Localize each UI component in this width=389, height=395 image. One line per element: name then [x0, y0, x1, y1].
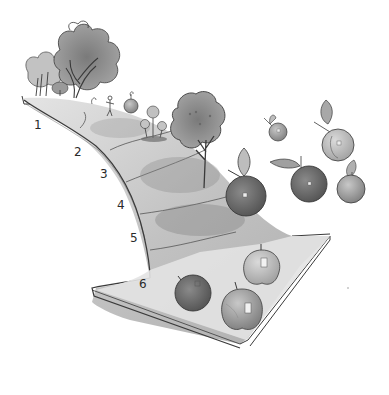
speck [347, 287, 349, 289]
apple-icon [124, 92, 138, 113]
apple-icon [314, 100, 354, 161]
stage-4-apple-with-leaf [226, 148, 266, 216]
stage-label-3: 3 [100, 168, 108, 180]
stage-label-6: 6 [139, 278, 147, 290]
stage-label-2: 2 [74, 146, 82, 158]
apple-process-diagram: 1 2 3 4 5 6 [0, 0, 389, 395]
stage-label-5: 5 [130, 232, 138, 244]
apple-icon [264, 115, 287, 141]
diagram-svg [0, 0, 389, 395]
stage-label-4: 4 [117, 199, 125, 211]
stage-label-1: 1 [34, 119, 42, 131]
apple-icon [337, 160, 365, 203]
shrub-icon [52, 82, 68, 96]
apple-icon [175, 275, 211, 311]
arrowhead-plate [96, 236, 330, 340]
floating-apples [264, 100, 365, 203]
apple-icon [270, 156, 327, 202]
